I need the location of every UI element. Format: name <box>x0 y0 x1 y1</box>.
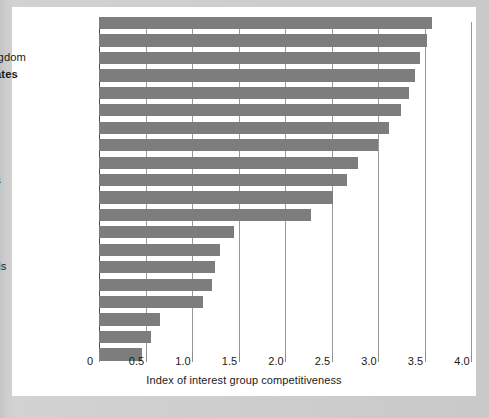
category-label: Austria <box>0 311 95 326</box>
x-tick-label: 3.0 <box>361 355 376 367</box>
bar-track <box>99 52 471 64</box>
x-tick-label: 0.5 <box>129 355 144 367</box>
bar-row: Germany <box>12 224 476 241</box>
category-label: Greece <box>0 32 95 47</box>
bar-track <box>99 261 471 273</box>
bar <box>99 313 160 325</box>
bar-track <box>99 331 471 343</box>
bar <box>99 261 215 273</box>
bar <box>99 104 401 116</box>
category-label: Sweden <box>0 329 95 344</box>
bar-rows: CanadaGreeceUnited KingdomUnited StatesS… <box>12 15 476 364</box>
bar-row: Costa Rica <box>12 172 476 189</box>
bar-row: Venezuela <box>12 207 476 224</box>
bar <box>99 331 151 343</box>
bar-track <box>99 279 471 291</box>
category-label: Australia <box>0 155 95 170</box>
category-label: United States <box>0 67 95 82</box>
category-label: Ireland <box>0 120 95 135</box>
bar <box>99 122 389 134</box>
bar <box>99 191 333 203</box>
category-label: Germany <box>0 224 95 239</box>
bar-row: Italy <box>12 102 476 119</box>
bar-row: Denmark <box>12 294 476 311</box>
bar-track <box>99 313 471 325</box>
bar <box>99 226 234 238</box>
bar <box>99 157 358 169</box>
bar-row: Sweden <box>12 329 476 346</box>
bar-track <box>99 69 471 81</box>
bar-row: United States <box>12 67 476 84</box>
bar-row: Spain <box>12 85 476 102</box>
bar-row: Greece <box>12 32 476 49</box>
bar <box>99 87 409 99</box>
bar-track <box>99 244 471 256</box>
bar-row: Canada <box>12 15 476 32</box>
category-label: Spain <box>0 85 95 100</box>
category-label: Israel <box>0 277 95 292</box>
bar-row: Netherlands <box>12 259 476 276</box>
x-tick-label: 3.5 <box>408 355 423 367</box>
bar-track <box>99 17 471 29</box>
x-tick-label: 2.5 <box>315 355 330 367</box>
bar-track <box>99 296 471 308</box>
bar <box>99 34 427 46</box>
x-tick-label: 4.0 <box>454 355 469 367</box>
bar-track <box>99 122 471 134</box>
bar-row: France <box>12 137 476 154</box>
category-label: India <box>0 189 95 204</box>
category-label: France <box>0 137 95 152</box>
bar-track <box>99 104 471 116</box>
bar-track <box>99 191 471 203</box>
bar-track <box>99 139 471 151</box>
bar-track <box>99 209 471 221</box>
bar <box>99 279 212 291</box>
bar <box>99 209 311 221</box>
x-axis-title: Index of interest group competitiveness <box>12 374 476 386</box>
category-label: Netherlands <box>0 259 95 274</box>
bar-row: Ireland <box>12 120 476 137</box>
bar-row: Japan <box>12 242 476 259</box>
category-label: Norway <box>0 346 95 361</box>
bar-row: Australia <box>12 155 476 172</box>
bar-track <box>99 87 471 99</box>
bar-row: United Kingdom <box>12 50 476 67</box>
bar <box>99 69 415 81</box>
bar <box>99 17 432 29</box>
x-tick-label: 1.5 <box>222 355 237 367</box>
bar <box>99 174 347 186</box>
category-label: Denmark <box>0 294 95 309</box>
bar-row: Austria <box>12 311 476 328</box>
bar <box>99 52 420 64</box>
x-tick-label: 2.0 <box>268 355 283 367</box>
bar-row: India <box>12 189 476 206</box>
bar <box>99 244 220 256</box>
bar <box>99 296 203 308</box>
bar-track <box>99 34 471 46</box>
category-label: Italy <box>0 102 95 117</box>
category-label: Costa Rica <box>0 172 95 187</box>
x-tick-label: 1.0 <box>175 355 190 367</box>
chart-card: CanadaGreeceUnited KingdomUnited StatesS… <box>12 7 476 396</box>
category-label: Japan <box>0 242 95 257</box>
bar-chart-plot: CanadaGreeceUnited KingdomUnited StatesS… <box>12 7 476 396</box>
bar-track <box>99 174 471 186</box>
bar-row: Israel <box>12 277 476 294</box>
category-label: Venezuela <box>0 207 95 222</box>
category-label: Canada <box>0 15 95 30</box>
bar-track <box>99 226 471 238</box>
category-label: United Kingdom <box>0 50 95 65</box>
bar <box>99 139 378 151</box>
x-tick-label: 0 <box>87 355 93 367</box>
bar-track <box>99 157 471 169</box>
x-axis-tick-labels: 00.51.01.52.02.53.03.54.0 <box>99 355 479 371</box>
